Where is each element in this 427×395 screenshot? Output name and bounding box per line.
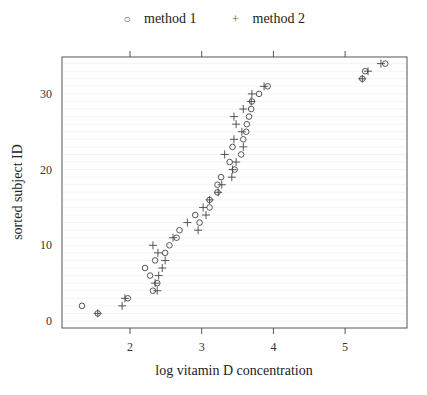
plus-marker [248, 90, 256, 98]
plus-marker [206, 196, 214, 204]
y-tick-label: 30 [40, 87, 52, 101]
y-tick-label: 10 [40, 238, 52, 252]
data-points [79, 60, 388, 318]
plus-marker [154, 249, 162, 257]
plus-marker [230, 135, 238, 143]
x-tick-label: 4 [270, 340, 276, 354]
plus-marker [155, 272, 163, 280]
plus-marker [202, 211, 210, 219]
y-tick-label: 20 [40, 163, 52, 177]
plus-marker [239, 105, 247, 113]
plus-marker [228, 173, 236, 181]
plus-marker [239, 143, 247, 151]
plus-marker [118, 302, 126, 310]
plus-marker [161, 256, 169, 264]
plus-marker [214, 188, 222, 196]
y-axis-title: sorted subject ID [10, 144, 25, 240]
x-axis-title: log vitamin D concentration [155, 363, 312, 378]
plus-marker [158, 264, 166, 272]
plus-marker [232, 120, 240, 128]
plus-marker [247, 97, 255, 105]
y-tick-label: 0 [46, 314, 52, 328]
plus-marker [199, 203, 207, 211]
x-tick-label: 2 [127, 340, 133, 354]
gridlines [63, 64, 406, 321]
plus-marker [94, 309, 102, 317]
plus-marker [230, 113, 238, 121]
plus-marker [194, 226, 202, 234]
x-tick-label: 3 [199, 340, 205, 354]
plus-marker [149, 241, 157, 249]
plus-marker [358, 75, 366, 83]
plus-marker [183, 219, 191, 227]
scatter-plot: 23450102030 log vitamin D concentration … [0, 0, 427, 395]
x-tick-label: 5 [342, 340, 348, 354]
axis-ticks: 23450102030 [40, 51, 348, 354]
plus-marker [232, 158, 240, 166]
plus-marker [221, 150, 229, 158]
